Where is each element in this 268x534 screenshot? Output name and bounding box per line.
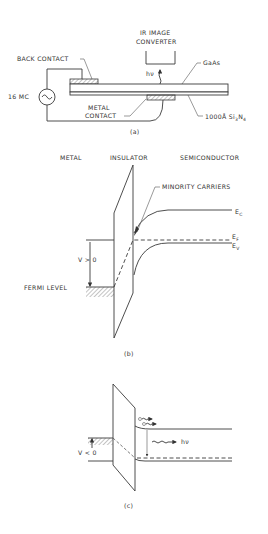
- semiconductor-heading: SEMICONDUCTOR: [180, 154, 240, 161]
- electron-motion-arrow: [146, 423, 156, 425]
- ef-label: EF: [232, 233, 239, 242]
- si3n4-layer: [70, 92, 228, 95]
- bias-label: V > 0: [78, 256, 97, 263]
- caption-a: (a): [130, 128, 140, 135]
- caption-b: (b): [124, 350, 134, 357]
- semiconductor-fermi-level: [114, 240, 230, 287]
- photon-emission-icon: [152, 441, 176, 443]
- metal-contact-label-line1: METAL: [88, 104, 110, 111]
- gaas-leader-line: [182, 63, 201, 84]
- ev-label: EV: [232, 242, 240, 251]
- source-label: 16 MC: [8, 93, 29, 100]
- conduction-band-edge-c: [135, 426, 232, 429]
- back-contact-pad: [70, 79, 98, 84]
- si3n4-leader-line: [188, 95, 203, 116]
- minority-carriers-label: MINORITY CARRIERS: [162, 183, 231, 190]
- ir-converter-icon: [146, 51, 175, 64]
- back-contact-label: BACK CONTACT: [17, 55, 69, 62]
- valence-band-edge: [134, 243, 232, 275]
- electron-icon: [139, 418, 142, 421]
- sine-wave-icon: [42, 95, 52, 99]
- converter-label-line1: IR IMAGE: [140, 29, 170, 36]
- insulator-heading: INSULATOR: [110, 154, 148, 161]
- gaas-slab: [70, 84, 228, 92]
- photon-label-c: hν: [181, 438, 189, 445]
- ec-label: EC: [235, 208, 243, 217]
- panel-b: METAL INSULATOR SEMICONDUCTOR V > 0 FERM…: [24, 154, 243, 357]
- insulator-barrier-c: [113, 384, 135, 491]
- electron-icon: [143, 423, 146, 426]
- insulator-barrier: [114, 165, 133, 338]
- panel-c: V < 0 hν (c): [78, 384, 232, 509]
- minority-carriers-leader: [137, 187, 160, 232]
- metal-contact-label-line2: CONTACT: [85, 112, 116, 119]
- metal-heading: METAL: [60, 154, 82, 161]
- photon-label: hν: [146, 70, 154, 77]
- electron-motion-arrow: [142, 418, 152, 420]
- metal-fermi-hatch: [86, 287, 114, 297]
- mis-device-diagram: IR IMAGE CONVERTER hν GaAs BACK CONTACT …: [0, 0, 268, 534]
- metal-contact-pad: [147, 95, 175, 100]
- panel-a: IR IMAGE CONVERTER hν GaAs BACK CONTACT …: [8, 29, 246, 135]
- converter-label-line2: CONVERTER: [136, 38, 177, 45]
- conduction-band-edge: [134, 210, 232, 233]
- fermi-level-label: FERMI LEVEL: [24, 284, 67, 291]
- bias-label-c: V < 0: [78, 449, 97, 456]
- potential-drop-line: [113, 438, 135, 458]
- gaas-label: GaAs: [203, 59, 220, 66]
- caption-c: (c): [124, 502, 133, 509]
- metal-contact-leader-line: [124, 99, 146, 116]
- valence-band-edge-c: [135, 459, 232, 461]
- si3n4-label: 1000Å Si3N4: [205, 113, 246, 122]
